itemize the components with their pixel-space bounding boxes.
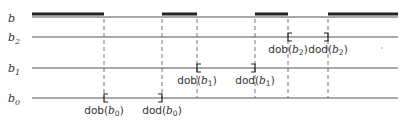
dod-label: dod(b2) (308, 43, 347, 57)
interval-diagram: bb2b1b0dob(b0)dod(b0)dob(b1)dod(b1)dob(b… (0, 0, 418, 120)
row-label-b1: b1 (8, 62, 20, 77)
dob-label: dob(b2) (268, 43, 307, 57)
dob-label: dob(b1) (177, 74, 216, 88)
row-label-b: b (8, 12, 15, 25)
stray-dot (381, 47, 383, 49)
row-label-b0: b0 (8, 92, 20, 107)
row-label-b2: b2 (8, 31, 20, 46)
dod-label: dod(b0) (142, 104, 181, 118)
dob-label: dob(b0) (84, 104, 123, 118)
dod-label: dod(b1) (235, 74, 274, 88)
